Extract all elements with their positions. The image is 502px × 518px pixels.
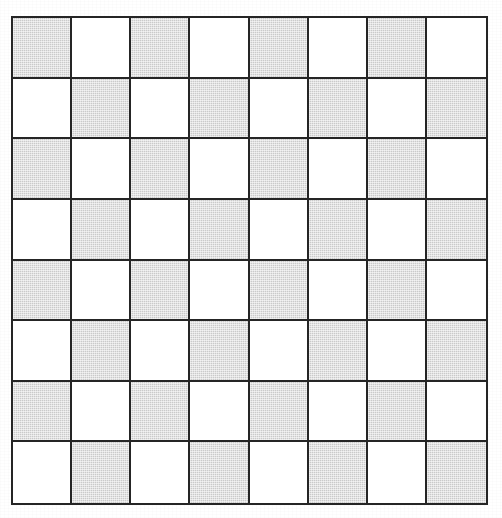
- board-square: [309, 139, 368, 200]
- board-square: [309, 79, 368, 140]
- board-square: [13, 139, 72, 200]
- board-square: [131, 18, 190, 79]
- board-square: [13, 200, 72, 261]
- board-square: [427, 139, 486, 200]
- board-square: [190, 18, 249, 79]
- board-square: [309, 18, 368, 79]
- board-square: [190, 200, 249, 261]
- board-square: [368, 200, 427, 261]
- board-square: [190, 321, 249, 382]
- board-square: [72, 79, 131, 140]
- board-square: [250, 442, 309, 503]
- board-square: [368, 261, 427, 322]
- board-square: [368, 382, 427, 443]
- board-square: [427, 200, 486, 261]
- board-square: [13, 442, 72, 503]
- board-square: [190, 382, 249, 443]
- board-square: [13, 382, 72, 443]
- board-square: [368, 442, 427, 503]
- board-square: [309, 382, 368, 443]
- board-square: [427, 79, 486, 140]
- board-square: [72, 382, 131, 443]
- board-square: [368, 18, 427, 79]
- board-square: [72, 18, 131, 79]
- board-square: [368, 139, 427, 200]
- board-square: [190, 79, 249, 140]
- board-square: [13, 321, 72, 382]
- board-square: [131, 382, 190, 443]
- board-square: [250, 139, 309, 200]
- board-square: [368, 79, 427, 140]
- board-square: [131, 200, 190, 261]
- board-square: [72, 139, 131, 200]
- board-square: [309, 261, 368, 322]
- board-square: [309, 200, 368, 261]
- board-square: [72, 442, 131, 503]
- board-square: [250, 200, 309, 261]
- board-square: [368, 321, 427, 382]
- board-square: [250, 261, 309, 322]
- board-square: [190, 139, 249, 200]
- page-root: [0, 0, 502, 518]
- board-square: [131, 261, 190, 322]
- board-square: [13, 79, 72, 140]
- board-square: [427, 18, 486, 79]
- board-square: [131, 442, 190, 503]
- board-square: [13, 18, 72, 79]
- board-square: [131, 321, 190, 382]
- board-square: [250, 79, 309, 140]
- board-square: [190, 261, 249, 322]
- board-square: [250, 382, 309, 443]
- board-square: [427, 382, 486, 443]
- board-square: [131, 79, 190, 140]
- board-square: [72, 200, 131, 261]
- board-square: [250, 321, 309, 382]
- board-square: [72, 261, 131, 322]
- board-square: [427, 321, 486, 382]
- board-square: [190, 442, 249, 503]
- checkerboard-grid: [11, 16, 488, 505]
- board-square: [250, 18, 309, 79]
- board-square: [427, 442, 486, 503]
- board-square: [131, 139, 190, 200]
- board-square: [13, 261, 72, 322]
- board-square: [309, 442, 368, 503]
- board-square: [309, 321, 368, 382]
- board-square: [72, 321, 131, 382]
- board-square: [427, 261, 486, 322]
